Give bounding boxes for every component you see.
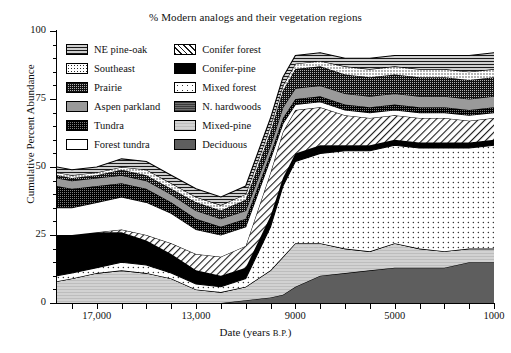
x-axis-minor-tick bbox=[122, 304, 123, 309]
x-axis-label: Date (years B.P.) bbox=[0, 326, 511, 338]
x-axis-minor-tick bbox=[72, 304, 73, 309]
y-axis-tick-label: 25 bbox=[0, 229, 46, 240]
x-axis-tick-label: 5000 bbox=[384, 310, 405, 321]
y-axis-tick-label: 0 bbox=[0, 297, 46, 308]
legend-swatch-icon bbox=[174, 139, 196, 150]
x-axis-minor-tick bbox=[146, 304, 147, 309]
legend-item-label: NE pine-oak bbox=[94, 44, 147, 55]
x-axis-minor-tick bbox=[271, 304, 272, 309]
x-axis-tick-label: 1000 bbox=[484, 310, 505, 321]
y-axis-tick-label: 75 bbox=[0, 93, 46, 104]
legend-item-label: Prairie bbox=[94, 82, 122, 93]
legend-item-ne-pine-oak[interactable]: NE pine-oak bbox=[66, 40, 160, 59]
legend-item-conifer-forest[interactable]: Conifer forest bbox=[174, 40, 261, 59]
x-axis-minor-tick bbox=[494, 304, 495, 309]
x-axis-minor-tick bbox=[370, 304, 371, 309]
y-axis-tick-label: 100 bbox=[0, 25, 46, 36]
x-axis-minor-tick bbox=[420, 304, 421, 309]
x-axis-minor-tick bbox=[171, 304, 172, 309]
legend-item-forest-tundra[interactable]: Forest tundra bbox=[66, 135, 160, 154]
chart-figure: % Modern analogs and their vegetation re… bbox=[0, 0, 511, 353]
legend-column-left: NE pine-oakSoutheastPrairieAspen parklan… bbox=[66, 40, 160, 154]
legend-swatch-icon bbox=[174, 101, 196, 112]
x-axis-minor-tick bbox=[345, 304, 346, 309]
x-axis-minor-tick bbox=[320, 304, 321, 309]
legend-item-aspen-parkland[interactable]: Aspen parkland bbox=[66, 97, 160, 116]
x-axis-minor-tick bbox=[444, 304, 445, 309]
legend-item-label: Southeast bbox=[94, 63, 135, 74]
legend-item-prairie[interactable]: Prairie bbox=[66, 78, 160, 97]
x-axis-label-units: B.P. bbox=[273, 328, 288, 338]
legend-column-right: Conifer forestConifer-pineMixed forestN.… bbox=[174, 40, 261, 154]
x-axis-minor-tick bbox=[246, 304, 247, 309]
legend-item-n-hardwoods[interactable]: N. hardwoods bbox=[174, 97, 261, 116]
legend-item-label: Conifer forest bbox=[202, 44, 261, 55]
x-axis-minor-tick bbox=[295, 304, 296, 309]
legend-item-label: Mixed-pine bbox=[202, 120, 251, 131]
legend-item-label: N. hardwoods bbox=[202, 101, 261, 112]
legend-swatch-icon bbox=[66, 139, 88, 150]
x-axis-minor-tick bbox=[469, 304, 470, 309]
legend-swatch-icon bbox=[174, 63, 196, 74]
y-axis-tick-label: 50 bbox=[0, 161, 46, 172]
x-axis-label-main: Date (years bbox=[220, 326, 270, 338]
legend-swatch-icon bbox=[174, 44, 196, 55]
legend-item-label: Aspen parkland bbox=[94, 101, 160, 112]
chart-title: % Modern analogs and their vegetation re… bbox=[0, 11, 511, 23]
legend-swatch-icon bbox=[174, 120, 196, 131]
legend-swatch-icon bbox=[66, 82, 88, 93]
legend-item-tundra[interactable]: Tundra bbox=[66, 116, 160, 135]
y-axis-label: Cumulative Percent Abundance bbox=[24, 24, 36, 244]
legend-item-southeast[interactable]: Southeast bbox=[66, 59, 160, 78]
legend-item-label: Mixed forest bbox=[202, 82, 256, 93]
legend-item-label: Conifer-pine bbox=[202, 63, 255, 74]
legend-item-label: Forest tundra bbox=[94, 139, 150, 150]
x-axis-tick-label: 17,000 bbox=[82, 310, 111, 321]
x-axis-minor-tick bbox=[97, 304, 98, 309]
legend-item-deciduous[interactable]: Deciduous bbox=[174, 135, 261, 154]
legend-item-mixed-pine[interactable]: Mixed-pine bbox=[174, 116, 261, 135]
legend-item-label: Deciduous bbox=[202, 139, 247, 150]
legend-item-conifer-pine[interactable]: Conifer-pine bbox=[174, 59, 261, 78]
legend-swatch-icon bbox=[66, 63, 88, 74]
legend-swatch-icon bbox=[66, 120, 88, 131]
x-axis-tick-label: 9000 bbox=[285, 310, 306, 321]
legend-swatch-icon bbox=[66, 44, 88, 55]
x-axis-minor-tick bbox=[221, 304, 222, 309]
legend-item-label: Tundra bbox=[94, 120, 124, 131]
legend-item-mixed-forest[interactable]: Mixed forest bbox=[174, 78, 261, 97]
x-axis-minor-tick bbox=[196, 304, 197, 309]
legend-swatch-icon bbox=[174, 82, 196, 93]
x-axis-tick-label: 13,000 bbox=[182, 310, 211, 321]
legend: NE pine-oakSoutheastPrairieAspen parklan… bbox=[66, 40, 261, 154]
legend-swatch-icon bbox=[66, 101, 88, 112]
x-axis-minor-tick bbox=[395, 304, 396, 309]
